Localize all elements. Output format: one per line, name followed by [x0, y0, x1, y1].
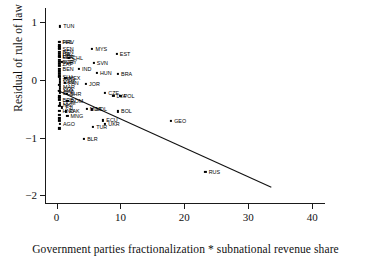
- data-point: [59, 103, 61, 105]
- data-point: [104, 92, 106, 94]
- data-point: [59, 92, 61, 94]
- data-point: [58, 99, 60, 101]
- x-tick-label: 0: [54, 211, 60, 223]
- data-point: [92, 126, 94, 128]
- data-point: [58, 114, 60, 116]
- data-point-label: BRA: [121, 71, 132, 77]
- data-point: [58, 41, 60, 43]
- data-point-label: TUN: [63, 23, 74, 29]
- y-tick-label: 0: [32, 74, 38, 86]
- x-tick-mark: [57, 204, 58, 209]
- data-point: [102, 119, 104, 121]
- data-point: [59, 56, 61, 58]
- y-tick-mark: [40, 195, 45, 196]
- data-point: [59, 123, 61, 125]
- data-point-label: GEO: [174, 118, 186, 124]
- scatter-chart: Residual of rule of law 10−1−2 010203040…: [0, 0, 371, 257]
- y-tick-label: −2: [25, 189, 37, 201]
- data-point-label: POL: [124, 93, 135, 99]
- data-point: [58, 65, 60, 67]
- data-point: [59, 25, 61, 27]
- data-point: [119, 95, 121, 97]
- x-tick-label: 40: [307, 211, 318, 223]
- data-point-label: TUR: [96, 124, 107, 130]
- x-tick-mark: [312, 204, 313, 209]
- data-point-label: BEN: [63, 66, 74, 72]
- data-point: [170, 120, 172, 122]
- x-tick-label: 30: [243, 211, 254, 223]
- data-point-label: SVN: [97, 60, 108, 66]
- data-point: [78, 68, 80, 70]
- y-tick-label: −1: [25, 132, 37, 144]
- x-tick-mark: [120, 204, 121, 209]
- data-point: [117, 73, 119, 75]
- data-point-label: BOL: [121, 108, 132, 114]
- data-point-label: MYS: [96, 46, 108, 52]
- data-point: [66, 115, 68, 117]
- data-point-label: MDL: [96, 106, 107, 112]
- y-axis-title: Residual of rule of law: [12, 0, 24, 128]
- data-point: [204, 171, 206, 173]
- data-point: [58, 63, 60, 65]
- data-point-label: RUS: [209, 169, 220, 175]
- data-point: [58, 110, 60, 112]
- data-point: [91, 48, 93, 50]
- data-point-label: UKR: [108, 121, 119, 127]
- data-point: [91, 108, 93, 110]
- data-point: [58, 127, 60, 129]
- data-point: [85, 108, 87, 110]
- data-point: [58, 120, 60, 122]
- data-point: [85, 82, 87, 84]
- data-point-label: MNG: [71, 113, 84, 119]
- y-axis-line: [45, 8, 46, 204]
- y-tick-mark: [40, 22, 45, 23]
- regression-line: [45, 8, 325, 204]
- data-point-label: EST: [120, 51, 130, 57]
- x-tick-mark: [184, 204, 185, 209]
- data-point: [116, 52, 118, 54]
- x-tick-label: 20: [179, 211, 190, 223]
- y-tick-mark: [40, 138, 45, 139]
- y-tick-mark: [40, 80, 45, 81]
- y-tick-label: 1: [32, 16, 38, 28]
- data-point: [59, 81, 61, 83]
- data-point-label: IND: [82, 66, 91, 72]
- data-point: [83, 138, 85, 140]
- data-point: [66, 93, 68, 95]
- data-point: [96, 72, 98, 74]
- data-point: [92, 62, 94, 64]
- data-point-label: HUN: [100, 70, 112, 76]
- data-point-label: JOR: [89, 81, 100, 87]
- x-tick-mark: [248, 204, 249, 209]
- x-axis-title: Government parties fractionalization * s…: [0, 243, 371, 255]
- data-point-label: BLR: [87, 136, 98, 142]
- data-point: [65, 110, 67, 112]
- plot-area: 10−1−2 010203040 TUNHRVPHLSENBENITALTUPE…: [45, 8, 325, 204]
- data-point: [117, 110, 119, 112]
- data-point: [58, 68, 60, 70]
- data-point: [59, 78, 61, 80]
- x-tick-label: 10: [115, 211, 126, 223]
- data-point-label: PHL: [62, 39, 73, 45]
- data-point-label: AGO: [63, 121, 75, 127]
- data-point: [112, 95, 114, 97]
